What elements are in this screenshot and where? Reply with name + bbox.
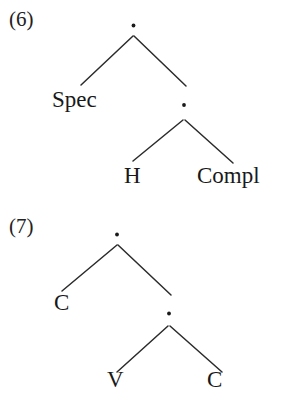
figure-6: (6) Spec H Compl [0,0,291,205]
tree-6-intermediate-node-dot [182,103,186,107]
tree-6-edge-root-intermediate [134,36,186,86]
tree-7-branches [0,205,291,410]
tree-7-root-node-dot [115,233,119,237]
tree-7-edge-root-onset [62,245,117,291]
tree-6-edge-intermediate-head [133,120,183,161]
tree-6-label-complement: Compl [197,164,260,187]
tree-7-intermediate-node-dot [167,312,171,316]
tree-6-label-spec: Spec [52,88,97,111]
tree-6-edge-root-spec [81,36,133,85]
tree-6-root-node-dot [132,24,136,28]
tree-7-edge-root-intermediate [118,245,171,295]
figure-7: (7) C V C [0,205,291,410]
tree-7-label-nucleus: V [107,368,124,391]
tree-7-edge-intermediate-nucleus [117,326,168,372]
tree-6-label-head: H [124,164,141,187]
tree-6-edge-intermediate-complement [185,120,233,163]
tree-7-edge-intermediate-coda [170,326,222,372]
tree-7-label-onset: C [54,291,69,314]
tree-7-label-coda: C [207,368,222,391]
